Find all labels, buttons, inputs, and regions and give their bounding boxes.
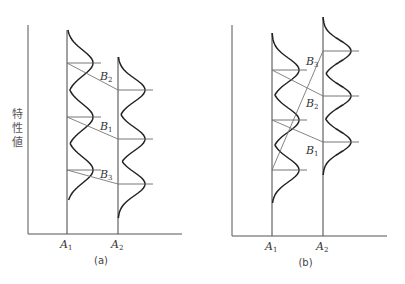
panel-b-link-B3-label: B3 bbox=[305, 55, 319, 69]
panel-b-caption: (b) bbox=[298, 257, 312, 268]
panel-b-link-B1-label: B1 bbox=[305, 144, 319, 158]
panel-a-link-B1-label: B1 bbox=[99, 120, 113, 134]
panel-a-column-2-distribution bbox=[118, 57, 145, 218]
diagram-canvas: A1A2B2B1B3(a)A1A2B3B2B1(b) bbox=[0, 0, 405, 284]
panel-b-link-B2-label: B2 bbox=[305, 97, 319, 111]
panel-a-link-B3-label: B3 bbox=[99, 168, 113, 182]
panel-a-caption: (a) bbox=[94, 255, 108, 266]
panel-b-column-1-distribution bbox=[272, 33, 299, 203]
panel-b-column-1-label: A1 bbox=[264, 240, 277, 254]
panel-a-column-2-label: A2 bbox=[110, 238, 123, 252]
panel-a-link-B2-label: B2 bbox=[99, 70, 113, 84]
panel-a-column-1-label: A1 bbox=[59, 238, 72, 252]
panel-a-column-1-distribution bbox=[68, 30, 93, 200]
panel-b-column-2-label: A2 bbox=[315, 240, 328, 254]
